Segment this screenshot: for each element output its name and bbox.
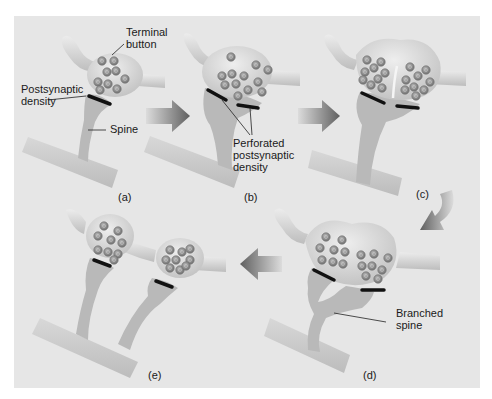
label-branched-line2: spine [396, 319, 422, 331]
label-terminal-button-line2: button [126, 38, 157, 50]
arrow-d-to-e [240, 248, 282, 280]
label-postsynaptic-density-line2: density [21, 95, 56, 107]
caption-a: (a) [118, 191, 131, 203]
label-spine: Spine [110, 123, 138, 135]
label-perforated-line2: postsynaptic [233, 149, 294, 161]
caption-e: (e) [148, 369, 161, 381]
caption-d: (d) [363, 369, 376, 381]
caption-c: (c) [416, 188, 429, 200]
label-terminal-button-line1: Terminal [126, 26, 168, 38]
caption-b: (b) [244, 191, 257, 203]
label-perforated-line1: Perforated [233, 137, 284, 149]
arrow-a-to-b [146, 100, 190, 132]
label-branched-line1: Branched [396, 307, 443, 319]
label-perforated-line3: density [233, 161, 268, 173]
panel-e [32, 209, 226, 378]
label-postsynaptic-density-line1: Postsynaptic [21, 83, 83, 95]
panel-d [264, 209, 440, 374]
arrow-b-to-c [298, 100, 340, 132]
panel-a [22, 36, 165, 188]
